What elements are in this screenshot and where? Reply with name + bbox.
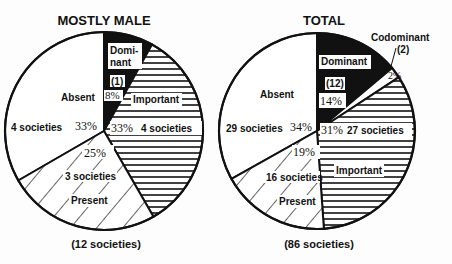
codominant-label: Codominant [371, 32, 430, 43]
total-footer: (86 societies) [284, 238, 354, 250]
important-label: Important [133, 94, 180, 105]
total-title: TOTAL [303, 13, 345, 28]
dominant-pct: 14% [320, 94, 342, 108]
present-pct: 25% [84, 146, 106, 160]
present-label: Present [279, 196, 316, 207]
absent-pct: 33% [75, 119, 97, 133]
present-count: 3 societies [65, 171, 117, 182]
absent-pct: 34% [290, 120, 312, 134]
important-pct: 31% [321, 123, 343, 137]
important-count: 4 societies [141, 123, 193, 134]
present-pct: 19% [293, 145, 315, 159]
codominant-count: (2) [397, 44, 409, 55]
codominant-leader-line [390, 48, 396, 70]
dominant-label-1: Domi- [110, 45, 138, 56]
mostly-male-title: MOSTLY MALE [57, 13, 151, 28]
dominant-count: (1) [111, 76, 123, 87]
mostly-male-footer: (12 societies) [71, 238, 141, 250]
absent-label: Absent [61, 92, 96, 103]
dominant-count: (12) [326, 78, 344, 89]
present-label: Present [71, 195, 108, 206]
dominant-pct: 8% [105, 89, 120, 101]
pie-charts: MOSTLY MALE Domi- nant (1) 8% Important … [0, 0, 452, 264]
absent-count: 29 societies [226, 123, 283, 134]
codominant-pct: 2% [388, 70, 401, 81]
important-count: 27 societies [347, 125, 404, 136]
important-label: Important [336, 165, 383, 176]
important-pct: 33% [111, 121, 133, 135]
absent-label: Absent [260, 89, 295, 100]
dominant-label: Dominant [321, 56, 368, 67]
present-count: 16 societies [266, 172, 323, 183]
absent-count: 4 societies [11, 122, 63, 133]
dominant-label-2: nant [110, 57, 132, 68]
